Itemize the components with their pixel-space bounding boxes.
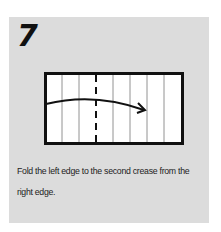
instruction-panel: 7 Fold the left edge to the second creas… — [9, 17, 209, 223]
step-caption: Fold the left edge to the second crease … — [17, 160, 190, 202]
fold-diagram — [44, 72, 184, 145]
paper-rectangle — [46, 74, 183, 144]
step-number: 7 — [17, 19, 38, 53]
